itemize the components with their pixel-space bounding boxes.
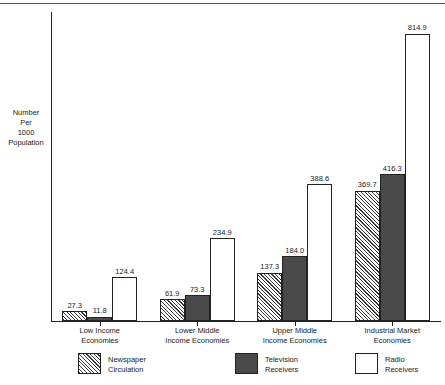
y-axis-label-line-4: Population bbox=[2, 138, 50, 148]
y-axis-label-line-1: Number bbox=[2, 108, 50, 118]
bar-rect[interactable] bbox=[307, 184, 332, 321]
category-label: Low IncomeEconomies bbox=[51, 326, 149, 345]
bar-value-label: 416.3 bbox=[383, 164, 402, 173]
bar-rect[interactable] bbox=[282, 256, 307, 321]
bar-group-bars: 137.3184.0388.6 bbox=[246, 12, 344, 321]
bar-newspaper[interactable]: 27.3 bbox=[62, 12, 87, 321]
bar-value-label: 184.0 bbox=[285, 246, 304, 255]
legend-label: RadioReceivers bbox=[385, 353, 418, 374]
bar-television[interactable]: 184.0 bbox=[282, 12, 307, 321]
bar-television[interactable]: 73.3 bbox=[185, 12, 210, 321]
bar-value-label: 11.8 bbox=[93, 306, 107, 315]
bar-value-label: 27.3 bbox=[67, 301, 82, 310]
category-label-line: Economies bbox=[51, 336, 149, 346]
legend-item[interactable]: TelevisionReceivers bbox=[235, 353, 298, 374]
bar-group: 369.7416.3814.9 bbox=[344, 12, 442, 321]
bar-value-label: 234.9 bbox=[213, 228, 232, 237]
bar-rect[interactable] bbox=[210, 238, 235, 321]
bar-group-bars: 61.973.3234.9 bbox=[149, 12, 247, 321]
bar-rect[interactable] bbox=[355, 191, 380, 321]
bar-value-label: 369.7 bbox=[358, 180, 377, 189]
legend-label-line: Newspaper bbox=[108, 355, 146, 365]
legend-item[interactable]: RadioReceivers bbox=[355, 353, 418, 374]
legend-item[interactable]: NewspaperCirculation bbox=[78, 353, 146, 374]
bar-radio[interactable]: 234.9 bbox=[210, 12, 235, 321]
bar-television[interactable]: 416.3 bbox=[380, 12, 405, 321]
bar-group: 61.973.3234.9 bbox=[149, 12, 247, 321]
bar-rect[interactable] bbox=[257, 273, 282, 321]
bar-rect[interactable] bbox=[380, 174, 405, 321]
category-label-line: Income Economies bbox=[149, 336, 247, 346]
top-rule-divider bbox=[0, 3, 445, 4]
y-axis-label: Number Per 1000 Population bbox=[2, 108, 50, 148]
legend-label: NewspaperCirculation bbox=[108, 353, 146, 374]
y-axis-label-line-2: Per bbox=[2, 118, 50, 128]
bar-value-label: 388.6 bbox=[310, 174, 329, 183]
bar-radio[interactable]: 814.9 bbox=[405, 12, 430, 321]
bar-radio[interactable]: 124.4 bbox=[112, 12, 137, 321]
bar-value-label: 73.3 bbox=[190, 285, 205, 294]
bar-group-bars: 369.7416.3814.9 bbox=[344, 12, 442, 321]
category-label-line: Low Income bbox=[51, 326, 149, 336]
legend-label-line: Receivers bbox=[265, 365, 298, 375]
plot-area: 27.311.8124.461.973.3234.9137.3184.0388.… bbox=[51, 12, 441, 322]
bar-rect[interactable] bbox=[405, 34, 430, 321]
category-label: Industrial MarketEconomies bbox=[344, 326, 442, 345]
bar-rect[interactable] bbox=[87, 317, 112, 321]
bar-group-bars: 27.311.8124.4 bbox=[51, 12, 149, 321]
category-label-line: Income Economies bbox=[246, 336, 344, 346]
bar-radio[interactable]: 388.6 bbox=[307, 12, 332, 321]
category-label-line: Upper Middle bbox=[246, 326, 344, 336]
category-label: Lower MiddleIncome Economies bbox=[149, 326, 247, 345]
legend-swatch bbox=[355, 353, 378, 374]
y-axis-label-line-3: 1000 bbox=[2, 128, 50, 138]
bar-group: 137.3184.0388.6 bbox=[246, 12, 344, 321]
legend-label-line: Television bbox=[265, 355, 298, 365]
bar-value-label: 137.3 bbox=[260, 262, 279, 271]
chart-legend: NewspaperCirculationTelevisionReceiversR… bbox=[0, 353, 445, 385]
legend-label-line: Receivers bbox=[385, 365, 418, 375]
x-axis-line bbox=[51, 321, 441, 322]
legend-label-line: Circulation bbox=[108, 365, 146, 375]
bar-group: 27.311.8124.4 bbox=[51, 12, 149, 321]
bar-value-label: 814.9 bbox=[408, 23, 427, 32]
bar-value-label: 124.4 bbox=[115, 267, 134, 276]
category-label-line: Economies bbox=[344, 336, 442, 346]
bar-rect[interactable] bbox=[160, 299, 185, 321]
legend-label: TelevisionReceivers bbox=[265, 353, 298, 374]
legend-label-line: Radio bbox=[385, 355, 418, 365]
legend-swatch bbox=[78, 353, 101, 374]
category-label-line: Lower Middle bbox=[149, 326, 247, 336]
legend-swatch bbox=[235, 353, 258, 374]
bar-rect[interactable] bbox=[112, 277, 137, 321]
bar-newspaper[interactable]: 369.7 bbox=[355, 12, 380, 321]
bar-value-label: 61.9 bbox=[165, 289, 180, 298]
bar-television[interactable]: 11.8 bbox=[87, 12, 112, 321]
category-label: Upper MiddleIncome Economies bbox=[246, 326, 344, 345]
bar-rect[interactable] bbox=[62, 311, 87, 321]
bar-newspaper[interactable]: 137.3 bbox=[257, 12, 282, 321]
category-label-line: Industrial Market bbox=[344, 326, 442, 336]
bar-chart-figure: Number Per 1000 Population 27.311.8124.4… bbox=[0, 0, 445, 385]
bar-newspaper[interactable]: 61.9 bbox=[160, 12, 185, 321]
bar-rect[interactable] bbox=[185, 295, 210, 321]
